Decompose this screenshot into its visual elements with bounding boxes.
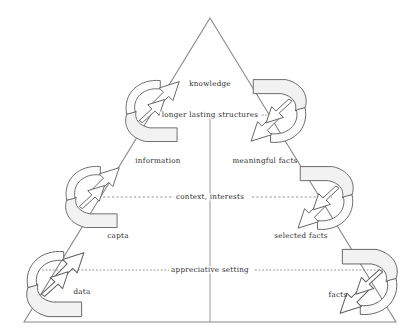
label-data: data	[73, 288, 90, 295]
arrow-right-lower	[340, 249, 397, 314]
label-longer-lasting-structures: longer lasting structures	[160, 111, 261, 118]
label-facts: facts	[329, 291, 348, 298]
label-knowledge: knowledge	[189, 80, 231, 87]
arrow-left-lower	[27, 251, 84, 316]
label-context-interests: context, interests	[174, 193, 246, 200]
label-selected-facts: selected facts	[274, 232, 328, 239]
diagram-canvas: knowledge longer lasting structures info…	[0, 0, 419, 336]
knowledge-triangle-svg	[0, 0, 419, 336]
label-appreciative-setting: appreciative setting	[169, 266, 251, 273]
arrow-left-middle	[66, 166, 120, 227]
arrow-right-middle	[298, 167, 353, 230]
label-meaningful-facts: meaningful facts	[233, 157, 298, 164]
label-information: information	[135, 157, 180, 164]
label-capta: capta	[107, 232, 128, 239]
